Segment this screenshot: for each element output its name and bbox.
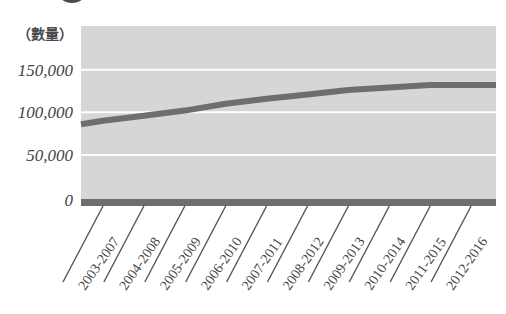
line-chart: 050,000100,000150,000 （數量） 2003-20072004… [0,0,506,314]
y-tick-label: 50,000 [26,146,73,165]
x-axis-baseline [81,199,496,206]
y-tick-label: 100,000 [18,103,74,122]
y-axis-label: （數量） [17,26,73,42]
x-axis-ticks: 2003-20072004-20082005-20092006-20102007… [63,206,490,293]
y-axis-ticks: 050,000100,000150,000 [18,61,74,210]
y-tick-label: 150,000 [18,61,74,80]
decorative-circle-icon [58,0,86,3]
x-tick-label: 2012-2016 [443,234,490,292]
y-tick-label: 0 [65,191,74,210]
